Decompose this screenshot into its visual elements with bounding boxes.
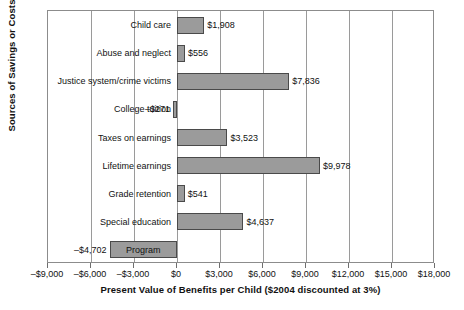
x-tick bbox=[391, 263, 392, 268]
bar-row: $9,978Lifetime earnings bbox=[48, 157, 433, 174]
bar[interactable] bbox=[177, 45, 185, 62]
bar[interactable] bbox=[177, 185, 185, 202]
category-label: Abuse and neglect bbox=[96, 48, 171, 58]
x-tick bbox=[219, 263, 220, 268]
x-tick-label: $12,000 bbox=[332, 269, 365, 279]
bar-chart: Sources of Savings or Costs $1,908Child … bbox=[0, 0, 464, 310]
category-label: Child care bbox=[130, 20, 171, 30]
bar-row: $3,523Taxes on earnings bbox=[48, 129, 433, 146]
bar-row: $556Abuse and neglect bbox=[48, 45, 433, 62]
x-tick bbox=[47, 263, 48, 268]
x-tick-label: $9,000 bbox=[291, 269, 319, 279]
bar-value-label: $1,908 bbox=[207, 20, 235, 30]
category-label: Special education bbox=[100, 217, 171, 227]
category-label: Grade retention bbox=[108, 189, 171, 199]
bar-series: $1,908Child care$556Abuse and neglect$7,… bbox=[48, 11, 433, 262]
bar-value-label: $4,637 bbox=[246, 217, 274, 227]
x-tick bbox=[348, 263, 349, 268]
x-tick-label: $18,000 bbox=[418, 269, 451, 279]
bar-value-label: $3,523 bbox=[230, 133, 258, 143]
bar-value-label: –$4,702 bbox=[74, 245, 107, 255]
bar[interactable] bbox=[177, 157, 320, 174]
bar-row: $541Grade retention bbox=[48, 185, 433, 202]
bar[interactable] bbox=[177, 129, 227, 146]
x-tick bbox=[305, 263, 306, 268]
x-tick-label: $15,000 bbox=[375, 269, 408, 279]
category-label: Lifetime earnings bbox=[102, 161, 171, 171]
bar-value-label: $556 bbox=[188, 48, 208, 58]
x-tick-label: –$9,000 bbox=[31, 269, 64, 279]
x-tick-label: $3,000 bbox=[205, 269, 233, 279]
x-tick-label: –$3,000 bbox=[117, 269, 150, 279]
category-label: Justice system/crime victims bbox=[57, 76, 171, 86]
bar-value-label: $9,978 bbox=[323, 161, 351, 171]
bar-value-label: $541 bbox=[188, 189, 208, 199]
y-axis-title: Sources of Savings or Costs bbox=[6, 0, 17, 161]
bar-row: –$4,702Program bbox=[48, 241, 433, 258]
bar-value-label: $7,836 bbox=[292, 76, 320, 86]
category-label: College tuition bbox=[114, 104, 171, 114]
x-tick bbox=[133, 263, 134, 268]
plot-area: $1,908Child care$556Abuse and neglect$7,… bbox=[47, 10, 434, 263]
category-label: Program bbox=[110, 245, 177, 255]
bar-row: $1,908Child care bbox=[48, 17, 433, 34]
bar[interactable] bbox=[177, 213, 243, 230]
x-tick-label: $0 bbox=[171, 269, 181, 279]
bar[interactable] bbox=[173, 101, 177, 118]
x-tick-label: $6,000 bbox=[248, 269, 276, 279]
category-label: Taxes on earnings bbox=[98, 133, 171, 143]
x-tick bbox=[90, 263, 91, 268]
x-tick bbox=[262, 263, 263, 268]
x-tick-label: –$6,000 bbox=[74, 269, 107, 279]
x-tick bbox=[434, 263, 435, 268]
bar-row: $4,637Special education bbox=[48, 213, 433, 230]
bar-row: –$271College tuition bbox=[48, 101, 433, 118]
x-axis-title: Present Value of Benefits per Child ($20… bbox=[47, 284, 434, 295]
bar[interactable] bbox=[177, 17, 204, 34]
x-tick bbox=[176, 263, 177, 268]
bar-row: $7,836Justice system/crime victims bbox=[48, 73, 433, 90]
bar[interactable] bbox=[177, 73, 289, 90]
